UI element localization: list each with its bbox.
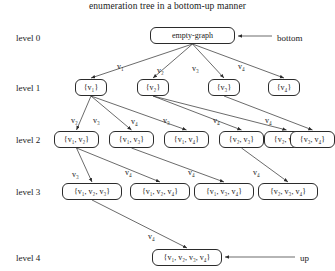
node-v14[interactable]: {v₁, v₄} xyxy=(164,131,209,148)
level-label-4: level 4 xyxy=(16,253,40,263)
edge-label-v13-to-v134: v₄ xyxy=(188,168,195,177)
node-v12[interactable]: {v₁, v₂} xyxy=(54,131,99,148)
edge-label-v123-to-v1234: v₄ xyxy=(148,232,155,241)
edge-label-v1-to-v14: v₄ xyxy=(131,117,138,126)
node-v4[interactable]: {v₄} xyxy=(268,79,300,96)
level-label-1: level 1 xyxy=(16,83,40,93)
node-v1234[interactable]: {v₁, v₂, v₃, v₄} xyxy=(152,249,222,266)
edge-v12-to-v124 xyxy=(77,148,161,182)
node-v234[interactable]: {v₂, v₃, v₄} xyxy=(258,183,318,200)
node-root[interactable]: empty-graph xyxy=(150,27,235,44)
level-label-0: level 0 xyxy=(16,33,40,43)
node-v1[interactable]: {v₁} xyxy=(75,79,107,96)
node-v124[interactable]: {v₁, v₂, v₄} xyxy=(130,183,190,200)
bottom-annotation: bottom xyxy=(277,33,303,43)
node-v34[interactable]: {v₃, v₄} xyxy=(290,131,335,148)
edge-root-to-v1 xyxy=(91,44,193,78)
edge-label-root-to-v3: v₃ xyxy=(192,64,199,73)
level-label-3: level 3 xyxy=(16,187,40,197)
edge-label-v2-to-v24: v₄ xyxy=(213,116,220,125)
edge-label-root-to-v1: v₁ xyxy=(117,62,124,71)
edge-v1-to-v12 xyxy=(77,96,92,130)
up-annotation: up xyxy=(300,253,309,263)
edge-label-v1-to-v13: v₃ xyxy=(93,116,100,125)
enumeration-tree-diagram: enumeration tree in a bottom-up manner l… xyxy=(0,0,335,271)
edge-label-v3-to-v34: v₄ xyxy=(265,116,272,125)
edge-label-v23-to-v234: v₄ xyxy=(253,168,260,177)
node-v3[interactable]: {v₃} xyxy=(208,79,240,96)
edge-label-v12-to-v123: v₃ xyxy=(72,170,79,179)
edge-label-v1-to-v12: v₂ xyxy=(71,116,78,125)
edge-v23-to-v234 xyxy=(242,148,289,182)
edge-label-v2-to-v23: v₃ xyxy=(163,116,170,125)
node-v134[interactable]: {v₁, v₃, v₄} xyxy=(194,183,254,200)
level-label-2: level 2 xyxy=(16,135,40,145)
node-v13[interactable]: {v₁, v₃} xyxy=(109,131,154,148)
edge-label-root-to-v2: v₂ xyxy=(157,66,164,75)
node-v123[interactable]: {v₁, v₂, v₃} xyxy=(62,183,122,200)
node-v23[interactable]: {v₂, v₃} xyxy=(219,131,264,148)
edge-root-to-v4 xyxy=(193,44,285,78)
edge-v13-to-v134 xyxy=(132,148,225,182)
node-v2[interactable]: {v₂} xyxy=(137,79,169,96)
edge-label-root-to-v4: v₄ xyxy=(238,62,245,71)
edge-v123-to-v1234 xyxy=(92,200,187,248)
edge-label-v12-to-v124: v₄ xyxy=(125,168,132,177)
